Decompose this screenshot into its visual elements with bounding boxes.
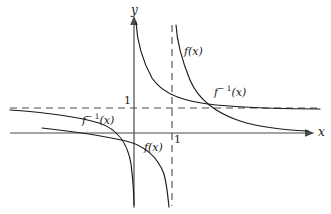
curve-finv-left-branch	[10, 110, 134, 207]
y-axis-label: y	[131, 4, 138, 16]
x-axis-label: x	[318, 126, 325, 138]
finv-right-superscript: − 1	[218, 84, 231, 93]
curve-label-f-upper: f(x)	[184, 46, 203, 57]
curve-label-finv-right: f− 1(x)	[214, 85, 246, 98]
finv-left-superscript: − 1	[86, 112, 99, 121]
graph-canvas	[0, 0, 331, 214]
curve-label-finv-left: f− 1(x)	[82, 113, 114, 126]
curve-label-f-lower: f(x)	[144, 142, 163, 153]
x-axis-tick-one-label: 1	[174, 134, 181, 145]
curve-f-left-branch	[42, 128, 169, 207]
finv-left-suffix: (x)	[100, 114, 115, 127]
curve-f-right-branch	[176, 25, 308, 131]
y-axis-tick-one-label: 1	[124, 95, 131, 106]
finv-right-suffix: (x)	[232, 86, 247, 99]
function-graph-figure: x y 1 1 f(x) f(x) f− 1(x) f− 1(x)	[0, 0, 331, 214]
